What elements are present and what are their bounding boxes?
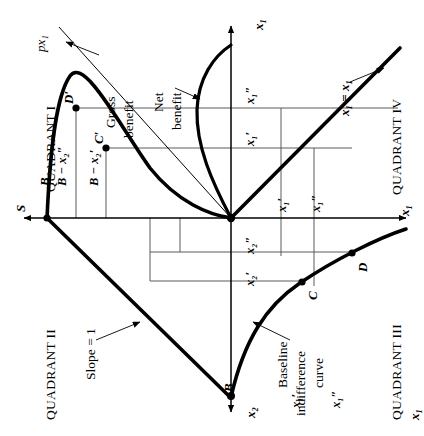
tick-x1-prime-horiz: x₁′ [276, 198, 289, 212]
point-B-s-axis [43, 214, 50, 221]
tick-B-minus-x2-dprime: B − x₂″ [56, 146, 69, 186]
point-label-C: C [306, 291, 319, 300]
point-label-D-prime: D′ [62, 91, 75, 104]
tick-x2-dprime-vert: x₂″ [244, 236, 257, 254]
baseline-label-line3: curve [312, 358, 326, 388]
slope-one-line [47, 218, 231, 398]
net-benefit-label-line2: benefit [170, 93, 184, 130]
gross-benefit-label-line2: benefit [122, 101, 136, 138]
axis-label-x2-bottom: x₂ [244, 407, 257, 418]
quadrant-iv-label: QUADRANT IV [390, 99, 404, 195]
quadrant-iii-label: QUADRANT III [390, 324, 404, 420]
net-benefit-curve [197, 45, 231, 218]
point-label-B-s-axis: B [38, 177, 51, 186]
axis-label-x1-quadrant3: x₁ [408, 409, 421, 420]
point-C [298, 278, 305, 285]
gross-benefit-label-line1: Gross [104, 96, 118, 128]
net-benefit-label-line1: Net [152, 93, 166, 113]
baseline-label-line1: Baseline [276, 342, 290, 389]
point-C-prime [102, 144, 109, 151]
price-axis-label: px₁ [34, 35, 47, 52]
tick-x2-prime-vert: x₂′ [244, 272, 257, 286]
point-D [348, 249, 355, 256]
point-label-B-x2-axis: B [222, 383, 235, 392]
figure-canvas: QUADRANT I QUADRANT II QUADRANT III QUAD… [0, 0, 424, 436]
tick-x1-dprime-vert: x₁″ [244, 86, 257, 104]
axis-label-x1-top: x₁ [252, 19, 265, 30]
gross-benefit-chord [59, 27, 231, 218]
tick-x1-dprime-q4: x₁″ [330, 390, 343, 408]
point-label-D: D [356, 263, 369, 272]
axis-label-S: S [14, 205, 27, 212]
tick-x1-prime-q4: x₁′ [290, 394, 303, 408]
tick-x1-dprime-horiz: x₁″ [310, 194, 323, 212]
quadrant-ii-label: QUADRANT II [44, 329, 58, 420]
point-origin [227, 214, 235, 222]
point-D-prime [72, 104, 79, 111]
tick-B-minus-x2-prime: B − x₂′ [88, 150, 101, 186]
axis-label-x1-right: x₁ [398, 205, 411, 216]
forty-five-line-label: x₁ = x₁ [338, 80, 351, 116]
tick-x1-prime-vert: x₁′ [244, 132, 257, 146]
slope-one-label: Slope = 1 [84, 328, 98, 380]
point-B-x2-axis [227, 392, 235, 400]
four-quadrant-diagram-svg [0, 0, 424, 436]
point-label-C-prime: C′ [92, 132, 105, 144]
